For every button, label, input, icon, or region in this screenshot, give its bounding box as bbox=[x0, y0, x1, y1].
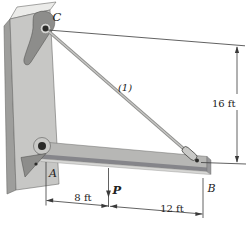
member-1 bbox=[46, 29, 199, 163]
label-force-p: P bbox=[112, 183, 122, 197]
label-dim-8ft: 8 ft bbox=[74, 192, 91, 203]
pin-joint-c bbox=[40, 23, 50, 33]
pin-a-icon bbox=[38, 142, 46, 150]
arrow-12ft-left-icon bbox=[110, 204, 117, 208]
arrow-12ft-right-icon bbox=[195, 212, 202, 216]
arrow-force-p-icon bbox=[106, 191, 111, 198]
label-point-b: B bbox=[207, 182, 216, 195]
label-dim-12ft: 12 ft bbox=[160, 203, 184, 214]
ext-line-top bbox=[48, 30, 245, 46]
pin-b-icon bbox=[195, 159, 199, 163]
arrow-8ft-right-icon bbox=[101, 204, 108, 208]
pin-c-icon bbox=[43, 26, 49, 32]
bolt-a-icon bbox=[34, 162, 37, 165]
arrow-16ft-up-icon bbox=[235, 46, 239, 53]
dim-12ft-line bbox=[110, 206, 203, 214]
statics-diagram: C (1) 16 ft A B P 8 ft 12 ft bbox=[0, 0, 250, 227]
arrow-8ft-left-icon bbox=[46, 198, 53, 202]
label-point-c: C bbox=[53, 10, 62, 24]
label-member-1: (1) bbox=[118, 82, 132, 93]
label-dim-16ft: 16 ft bbox=[212, 98, 236, 109]
label-point-a: A bbox=[48, 167, 57, 180]
figure-canvas: C (1) 16 ft A B P 8 ft 12 ft bbox=[0, 0, 250, 227]
beam-end-face bbox=[207, 157, 211, 175]
arrow-16ft-down-icon bbox=[235, 156, 239, 163]
dimension-lines bbox=[46, 30, 246, 218]
